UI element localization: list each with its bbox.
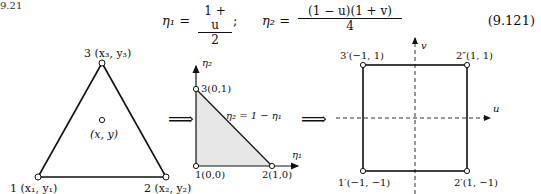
sq-node-2p-label: 2′(1, −1) — [454, 177, 498, 188]
ref-node-3-label: 3(0,1) — [201, 83, 231, 94]
maps-to-arrow-1: ⟹ — [168, 108, 194, 129]
eta1-axis-label: η₁ — [292, 149, 302, 160]
v-axis-label: v — [421, 40, 427, 51]
natural-coordinate-square: v u 3′(−1, 1) 2″(1, 1) 1′(−1, −1) 2′(1, … — [336, 38, 499, 194]
node-3-label: 3 (x₃, y₃) — [84, 47, 131, 60]
ref-node-1-label: 1(0,0) — [195, 169, 225, 180]
hypotenuse-equation: η₂ = 1 − η₁ — [226, 110, 282, 121]
ref-node-2-label: 2(1,0) — [262, 169, 292, 180]
physical-triangle: 3 (x₃, y₃) (x, y) 1 (x₁, y₁) 2 (x₂, y₂) — [10, 47, 191, 194]
sq-node-1-label: 1′(−1, −1) — [338, 177, 390, 188]
sq-node-3-label: 3′(−1, 1) — [340, 50, 384, 61]
node-2-label: 2 (x₂, y₂) — [144, 182, 191, 194]
node-3-marker — [99, 60, 105, 66]
eta2-axis-label: η₂ — [202, 57, 212, 68]
u-axis-label: u — [493, 103, 499, 114]
mapping-figure: 3 (x₃, y₃) (x, y) 1 (x₁, y₁) 2 (x₂, y₂) … — [0, 0, 541, 194]
node-1-label: 1 (x₁, y₁) — [10, 182, 57, 194]
sq-node-2pp-label: 2″(1, 1) — [456, 50, 493, 61]
node-1-marker — [35, 174, 41, 180]
node-2-marker — [163, 174, 169, 180]
reference-triangle: η₂ η₁ 3(0,1) 1(0,0) 2(1,0) η₂ = 1 − η₁ — [193, 57, 302, 180]
interior-point-label: (x, y) — [90, 128, 118, 141]
interior-point-marker — [99, 117, 104, 122]
maps-to-arrow-2: ⟹ — [301, 108, 327, 129]
